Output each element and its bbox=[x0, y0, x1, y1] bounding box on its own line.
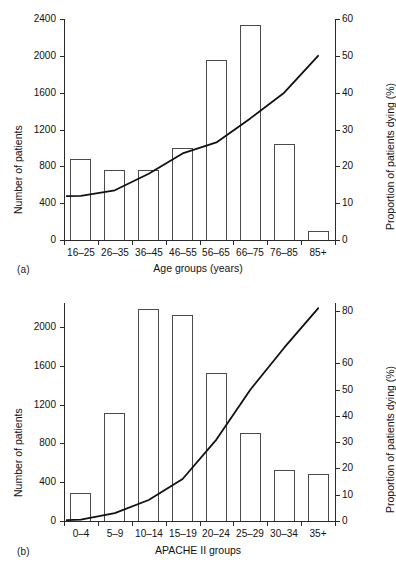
panel-a: (a) Number of patients Proportion of pat… bbox=[0, 0, 396, 287]
mortality-line-series bbox=[0, 0, 396, 287]
mortality-line-path bbox=[67, 56, 318, 196]
mortality-line-path bbox=[67, 308, 318, 520]
panel-b: (b) Number of patients Proportion of pat… bbox=[0, 287, 396, 574]
figure-two-panel-histograms: (a) Number of patients Proportion of pat… bbox=[0, 0, 396, 574]
mortality-line-series bbox=[0, 287, 396, 574]
